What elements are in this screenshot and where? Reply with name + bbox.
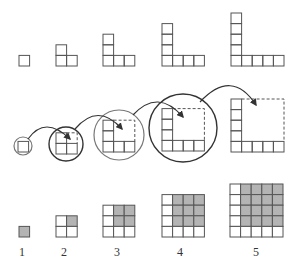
shaded-cell — [173, 195, 184, 206]
curved-arrow-icon-1 — [28, 127, 70, 139]
grid-cell — [103, 120, 114, 131]
grid-cell — [103, 226, 114, 237]
grid-cell — [124, 141, 135, 152]
grid-cell — [231, 34, 242, 45]
shaded-cell — [241, 195, 252, 206]
shaded-cell — [114, 216, 125, 227]
shaded-cell — [272, 195, 283, 206]
shaded-cell — [251, 184, 262, 195]
grid-cell — [230, 184, 241, 195]
shaded-cell — [67, 216, 78, 227]
shaded-cell — [194, 195, 205, 206]
grid-cell — [162, 195, 173, 206]
grid-cell — [242, 55, 253, 66]
grid-cell — [231, 141, 242, 152]
grid-cell — [124, 55, 135, 66]
grid-cell — [162, 130, 173, 141]
nested-gnomon-3 — [94, 110, 144, 160]
grid-cell — [56, 143, 67, 154]
grid-cell — [103, 45, 114, 56]
shaded-cell — [251, 205, 262, 216]
top-row-gnomons — [19, 13, 284, 66]
grid-cell — [173, 55, 184, 66]
square-grid-1: 1 — [19, 226, 30, 259]
grid-cell — [162, 109, 173, 120]
grid-cell — [273, 55, 284, 66]
grid-cell — [162, 226, 173, 237]
grid-cell — [103, 34, 114, 45]
gnomon-3 — [103, 34, 135, 66]
grid-cell — [162, 55, 173, 66]
shaded-cell — [272, 184, 283, 195]
shaded-cell — [262, 184, 273, 195]
square-grid-3: 3 — [103, 205, 135, 259]
curved-arrow-icon-2 — [75, 116, 122, 130]
grid-cell — [124, 226, 135, 237]
shaded-cell — [262, 195, 273, 206]
gnomon-4 — [162, 24, 204, 66]
grid-cell — [56, 55, 67, 66]
grid-cell — [230, 216, 241, 227]
gnomon-2 — [56, 45, 77, 66]
grid-cell — [103, 55, 114, 66]
grid-cell — [251, 226, 262, 237]
square-label-1: 1 — [19, 245, 25, 259]
grid-cell — [231, 120, 242, 131]
grid-cell — [103, 205, 114, 216]
grid-cell — [114, 55, 125, 66]
middle-row-nested-squares — [14, 86, 284, 162]
shaded-cell — [183, 216, 194, 227]
grid-cell — [114, 226, 125, 237]
grid-cell — [162, 140, 173, 151]
grid-cell — [114, 141, 125, 152]
shaded-cell — [19, 226, 30, 237]
grid-cell — [262, 226, 273, 237]
grid-cell — [194, 55, 205, 66]
bottom-row-squares: 12345 — [19, 184, 283, 259]
grid-cell — [252, 141, 263, 152]
shaded-cell — [241, 216, 252, 227]
grid-cell — [67, 226, 78, 237]
grid-cell — [103, 216, 114, 227]
grid-cell — [231, 13, 242, 24]
shaded-cell — [272, 216, 283, 227]
shaded-cell — [173, 205, 184, 216]
shaded-cell — [183, 195, 194, 206]
grid-cell — [162, 205, 173, 216]
grid-cell — [103, 141, 114, 152]
shaded-cell — [114, 205, 125, 216]
grid-cell — [194, 226, 205, 237]
square-grid-2: 2 — [56, 216, 77, 259]
grid-cell — [231, 45, 242, 56]
grid-cell — [56, 226, 67, 237]
nested-gnomon-4 — [149, 94, 217, 162]
grid-cell — [230, 195, 241, 206]
grid-cell — [67, 143, 78, 154]
grid-cell — [231, 24, 242, 35]
grid-cell — [162, 34, 173, 45]
dashed-completion-outline — [242, 99, 284, 141]
shaded-cell — [173, 216, 184, 227]
grid-cell — [162, 119, 173, 130]
shaded-cell — [194, 205, 205, 216]
grid-cell — [230, 226, 241, 237]
nested-gnomon-5 — [231, 99, 284, 152]
grid-cell — [162, 24, 173, 35]
grid-cell — [231, 131, 242, 142]
shaded-cell — [124, 205, 135, 216]
enclosing-circle-2 — [49, 127, 83, 161]
shaded-cell — [251, 216, 262, 227]
grid-cell — [183, 55, 194, 66]
grid-cell — [231, 110, 242, 121]
shaded-cell — [194, 216, 205, 227]
grid-cell — [67, 55, 78, 66]
enclosing-circle-4 — [149, 94, 217, 162]
grid-cell — [241, 226, 252, 237]
grid-cell — [183, 226, 194, 237]
grid-cell — [162, 45, 173, 56]
grid-cell — [173, 140, 184, 151]
square-label-3: 3 — [114, 245, 120, 259]
shaded-cell — [241, 184, 252, 195]
grid-cell — [231, 99, 242, 110]
grid-cell — [56, 45, 67, 56]
